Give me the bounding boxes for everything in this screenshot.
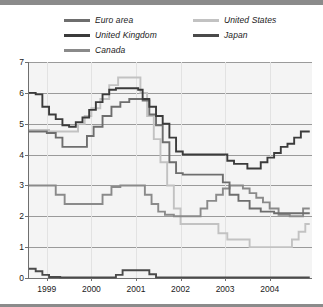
x-axis-label: 2001 bbox=[126, 285, 145, 294]
legend-column-right: United StatesJapan bbox=[193, 13, 276, 43]
y-tick bbox=[25, 278, 29, 279]
x-axis-label: 2000 bbox=[82, 285, 101, 294]
y-axis-label: 7 bbox=[10, 58, 24, 67]
y-tick bbox=[25, 62, 29, 63]
legend-item-euro-area[interactable]: Euro area bbox=[64, 13, 157, 27]
y-tick bbox=[25, 185, 29, 186]
legend-item-united-states[interactable]: United States bbox=[193, 13, 276, 27]
legend-label: Canada bbox=[95, 46, 125, 55]
y-tick bbox=[25, 93, 29, 94]
legend-label: Euro area bbox=[95, 16, 133, 25]
y-tick bbox=[25, 247, 29, 248]
legend-item-canada[interactable]: Canada bbox=[64, 43, 157, 57]
legend-swatch-icon bbox=[64, 19, 90, 22]
y-axis-label: 2 bbox=[10, 212, 24, 221]
x-tick bbox=[91, 278, 92, 281]
x-axis-label: 1999 bbox=[37, 285, 56, 294]
legend-label: Japan bbox=[224, 31, 248, 40]
series-line-japan bbox=[29, 269, 310, 278]
chart-figure: Euro areaUnited KingdomCanada United Sta… bbox=[0, 0, 323, 307]
y-tick bbox=[25, 216, 29, 217]
y-axis-label: 6 bbox=[10, 89, 24, 98]
y-axis-label: 1 bbox=[10, 243, 24, 252]
y-axis-label: 0 bbox=[10, 274, 24, 283]
legend-item-japan[interactable]: Japan bbox=[193, 28, 276, 42]
y-axis-label: 4 bbox=[10, 150, 24, 159]
x-tick bbox=[47, 278, 48, 281]
y-tick bbox=[25, 124, 29, 125]
chart-legend: Euro areaUnited KingdomCanada United Sta… bbox=[0, 13, 323, 57]
x-tick bbox=[270, 278, 271, 281]
y-axis-label: 5 bbox=[10, 119, 24, 128]
legend-swatch-icon bbox=[64, 49, 90, 52]
legend-swatch-icon bbox=[193, 34, 219, 37]
legend-swatch-icon bbox=[64, 34, 90, 37]
x-tick bbox=[225, 278, 226, 281]
legend-swatch-icon bbox=[193, 19, 219, 22]
legend-column-left: Euro areaUnited KingdomCanada bbox=[64, 13, 157, 58]
legend-item-united-kingdom[interactable]: United Kingdom bbox=[64, 28, 157, 42]
legend-label: United Kingdom bbox=[95, 31, 157, 40]
y-axis-label: 3 bbox=[10, 181, 24, 190]
x-axis-label: 2003 bbox=[216, 285, 235, 294]
x-tick bbox=[136, 278, 137, 281]
legend-label: United States bbox=[224, 16, 276, 25]
plot-area: 01234567199920002001200220032004 bbox=[28, 62, 312, 279]
x-axis-label: 2002 bbox=[171, 285, 190, 294]
series-line-euro-area bbox=[29, 99, 310, 213]
x-tick bbox=[181, 278, 182, 281]
series-lines bbox=[29, 62, 312, 278]
y-tick bbox=[25, 155, 29, 156]
top-rule bbox=[0, 0, 323, 5]
x-axis-label: 2004 bbox=[260, 285, 279, 294]
